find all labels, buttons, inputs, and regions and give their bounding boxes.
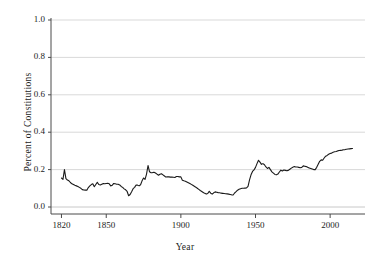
data-series-line xyxy=(61,148,352,195)
y-axis-title: Percent of Constitutions xyxy=(17,52,35,192)
x-axis-title: Year xyxy=(0,236,370,254)
x-tick-label: 2000 xyxy=(310,220,350,230)
x-tick-label: 1850 xyxy=(86,220,126,230)
y-tick-label: 0.0 xyxy=(15,201,45,211)
axis-lines-group xyxy=(51,18,365,214)
y-tick-label: 1.0 xyxy=(15,14,45,24)
x-tick-label: 1900 xyxy=(161,220,201,230)
gridlines-group xyxy=(51,20,365,207)
axis-ticks-group xyxy=(48,20,330,218)
chart-figure: 0.00.20.40.60.81.0 18201850190019502000 … xyxy=(0,0,370,260)
x-tick-label: 1820 xyxy=(41,220,81,230)
x-tick-label: 1950 xyxy=(236,220,276,230)
x-axis-title-text: Year xyxy=(176,242,195,252)
y-axis-title-text: Percent of Constitutions xyxy=(23,72,33,171)
